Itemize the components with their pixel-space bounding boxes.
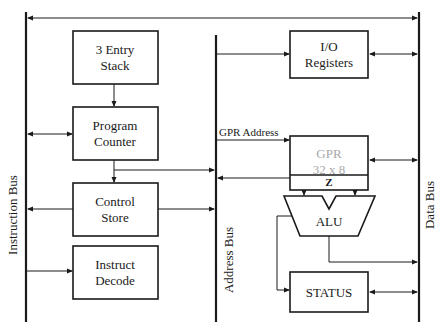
stack-label-line2: Stack: [101, 58, 130, 73]
status-label: STATUS: [306, 285, 353, 300]
gpr-address-label: GPR Address: [219, 126, 279, 138]
architecture-diagram: 3 Entry Stack Program Counter Control St…: [0, 0, 444, 331]
decode-label-line2: Decode: [95, 273, 135, 288]
alu-label: ALU: [316, 214, 343, 229]
pc-label-line2: Counter: [94, 134, 137, 149]
io-label-line2: Registers: [305, 55, 353, 70]
instruction-bus-label: Instruction Bus: [5, 175, 20, 255]
decode-label-line1: Instruct: [95, 257, 135, 272]
gpr-label-line1: GPR: [316, 146, 342, 161]
pc-label-line1: Program: [93, 118, 138, 133]
address-bus-label: Address Bus: [221, 227, 236, 293]
control-label-line2: Store: [101, 210, 129, 225]
gpr-z-flag-label: Z: [325, 176, 332, 188]
data-bus-label: Data Bus: [422, 181, 437, 229]
io-label-line1: I/O: [320, 39, 337, 54]
control-label-line1: Control: [95, 194, 135, 209]
alu-to-data-bus-arrow: [329, 236, 417, 262]
gpr-label-line2: 32 x 8: [313, 162, 346, 177]
stack-label-line1: 3 Entry: [96, 42, 135, 57]
